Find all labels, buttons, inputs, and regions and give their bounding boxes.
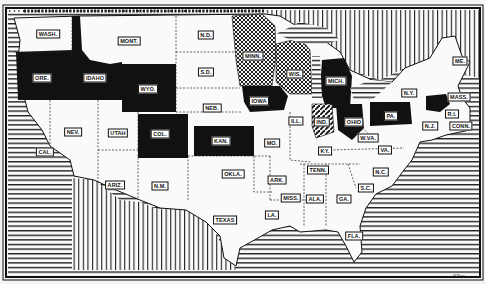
state-label-nm: N.M. [151, 182, 168, 191]
state-label-wash: WASH. [36, 30, 60, 39]
state-label-fla: FLA. [345, 232, 363, 241]
state-label-wis: WIS. [286, 70, 303, 79]
state-label-ohio: OHIO [344, 118, 363, 127]
state-label-ri: R.I. [445, 110, 459, 119]
state-label-utah: UTAH [108, 129, 128, 138]
state-label-idaho: IDAHO [83, 74, 106, 83]
state-label-okla: OKLA. [222, 170, 245, 179]
state-label-iowa: IOWA [249, 97, 269, 106]
state-label-neb: NEB. [203, 104, 222, 113]
state-label-la: LA. [265, 211, 279, 220]
map-graphic [0, 0, 485, 284]
state-label-ark: ARK. [268, 176, 287, 185]
state-label-wyo: WYO. [138, 85, 158, 94]
state-label-conn: CONN. [449, 122, 472, 131]
state-label-sd: S.D. [198, 68, 214, 77]
state-label-ind: IND. [314, 118, 330, 127]
state-label-mont: MONT. [118, 37, 141, 46]
state-minn [232, 14, 276, 86]
state-label-col: COL. [151, 130, 170, 139]
state-label-ga: GA. [336, 195, 351, 204]
state-label-nd: N.D. [198, 31, 214, 40]
state-label-mo: MO. [264, 139, 280, 148]
state-label-mass: MASS. [448, 93, 471, 102]
credit-signature: W.Roos [453, 273, 465, 278]
state-label-ny: N.Y. [401, 89, 417, 98]
state-label-ill: ILL. [288, 117, 303, 126]
state-label-pa: PA. [384, 112, 398, 121]
state-label-tenn: TENN. [307, 166, 329, 175]
state-label-mich: MICH. [325, 77, 346, 86]
state-label-nev: NEV. [64, 128, 82, 137]
state-label-miss: MISS. [281, 194, 301, 203]
state-label-cal: CAL. [36, 148, 54, 157]
state-label-ky: KY. [318, 147, 332, 156]
state-label-ariz: ARIZ. [105, 181, 125, 190]
state-label-sc: S.C. [358, 184, 374, 193]
state-wis [276, 38, 312, 94]
state-label-nj: N.J. [422, 122, 438, 131]
state-label-ore: ORE. [33, 74, 52, 83]
state-label-me: ME. [452, 57, 467, 66]
state-label-kan: KAN. [212, 137, 231, 146]
us-map: WASH.MONT.N.D.S.D.NEB.MINN.WIS.MICH.ORE.… [0, 0, 485, 284]
state-label-texas: TEXAS [213, 216, 237, 225]
state-label-va: VA. [378, 146, 392, 155]
state-label-minn: MINN. [242, 52, 263, 61]
state-label-ala: ALA. [306, 195, 324, 204]
state-label-wva: W.VA. [358, 134, 379, 143]
state-label-nc: N.C. [373, 168, 389, 177]
